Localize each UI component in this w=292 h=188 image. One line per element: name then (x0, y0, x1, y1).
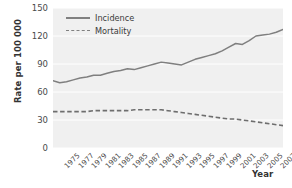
legend-swatch-dashed-icon (66, 26, 90, 36)
legend-label-incidence: Incidence (95, 13, 134, 23)
legend-item-incidence: Incidence (66, 13, 134, 23)
legend-swatch-solid-icon (66, 13, 90, 23)
series-line-mortality (53, 110, 283, 126)
chart-figure: Rate per 100 000 0306090120150 197519771… (0, 0, 292, 188)
series-line-incidence (53, 29, 283, 82)
chart-legend: Incidence Mortality (66, 13, 134, 36)
x-axis-title: Year (252, 169, 273, 179)
legend-item-mortality: Mortality (66, 26, 134, 36)
y-axis-title: Rate per 100 000 (13, 1, 23, 121)
y-tick-label: 0 (18, 143, 48, 153)
legend-label-mortality: Mortality (95, 26, 131, 36)
